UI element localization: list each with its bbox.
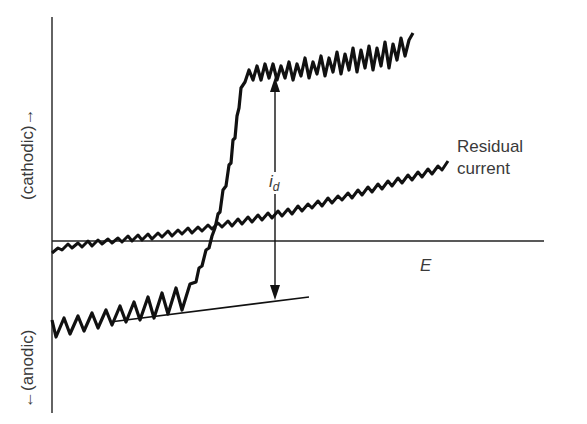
residual-current-curve [52,161,448,253]
residual-current-label: Residual current [457,136,523,180]
diffusion-current-label: id [268,172,280,194]
y-axis-label-anodic: ←(anodic) [18,330,38,408]
x-axis-label-potential: E [420,256,431,276]
y-axis-label-cathodic: (cathodic)→ [18,108,38,200]
diffusion-current-subscript: d [273,180,280,194]
arrow-down-head [270,285,280,300]
polarogram-canvas [0,0,587,424]
polarographic-wave-curve [52,33,413,337]
residual-current-label-line2: current [457,158,523,180]
residual-current-label-line1: Residual [457,136,523,158]
